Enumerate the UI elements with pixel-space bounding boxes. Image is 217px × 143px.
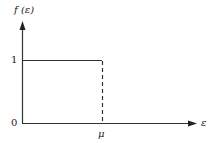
tick-label-one: 1 bbox=[11, 55, 17, 65]
step-function-plot bbox=[0, 0, 217, 143]
y-axis-arrow-icon bbox=[20, 21, 26, 30]
x-axis-arrow-icon bbox=[188, 121, 197, 127]
x-axis-label: ε bbox=[201, 118, 206, 128]
tick-label-mu: μ bbox=[98, 129, 105, 139]
tick-label-zero: 0 bbox=[11, 118, 17, 128]
y-axis-label: f (ε) bbox=[14, 5, 34, 15]
